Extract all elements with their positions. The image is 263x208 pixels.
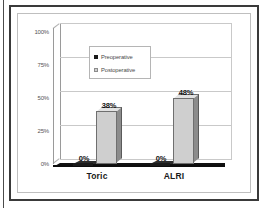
bar-alri-postoperative <box>173 98 194 164</box>
gridline-25 <box>60 125 232 126</box>
chart-figure-frame: 100% 75% 50% 25% 0% 0% <box>9 5 259 201</box>
legend-item-preoperative: Preoperative <box>94 54 133 60</box>
legend-label-postoperative: Postoperative <box>101 67 135 73</box>
scan-edge-artifact <box>3 0 4 208</box>
legend-item-postoperative: Postoperative <box>94 67 135 73</box>
y-axis-tick-25: 25% <box>25 128 49 134</box>
legend-swatch-postoperative <box>94 68 98 72</box>
bar-label-alri-preoperative: 0% <box>150 154 172 163</box>
chart-legend: Preoperative Postoperative <box>89 46 151 79</box>
legend-swatch-preoperative <box>94 55 98 59</box>
bar-chart-plot-area: 100% 75% 50% 25% 0% 0% <box>11 7 257 199</box>
category-label-toric: Toric <box>71 171 123 181</box>
bar-toric-preoperative <box>73 163 93 166</box>
plot-right-edge <box>231 23 232 159</box>
gridline-50 <box>60 91 232 92</box>
legend-label-preoperative: Preoperative <box>101 54 133 60</box>
gridline-100 <box>60 23 232 24</box>
bar-label-toric-postoperative: 38% <box>96 101 122 110</box>
y-axis-tick-100: 100% <box>25 29 49 35</box>
bar-toric-postoperative <box>96 111 117 164</box>
y-axis-tick-0: 0% <box>25 161 49 167</box>
category-label-alri: ALRI <box>148 171 200 181</box>
bar-label-toric-preoperative: 0% <box>73 154 95 163</box>
bar-alri-preoperative <box>150 163 170 166</box>
y-axis-tick-50: 50% <box>25 95 49 101</box>
y-axis-line <box>53 28 54 164</box>
bar-label-alri-postoperative: 48% <box>173 88 199 97</box>
y-axis-tick-75: 75% <box>25 62 49 68</box>
